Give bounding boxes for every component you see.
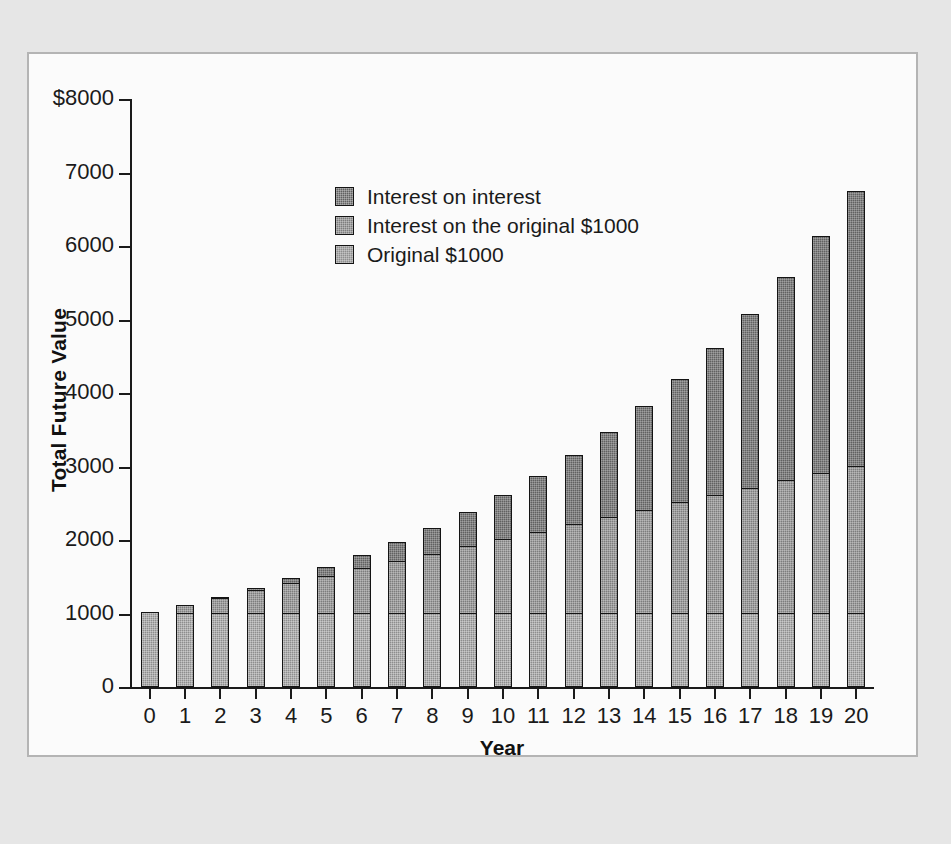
bar-segment-interest-on-interest[interactable] bbox=[317, 567, 335, 577]
bar-segment-interest-on-interest[interactable] bbox=[459, 512, 477, 547]
bar-segment-interest-on-original[interactable] bbox=[423, 553, 441, 613]
bar-segment-original[interactable] bbox=[777, 612, 795, 687]
bar-segment-interest-on-interest[interactable] bbox=[706, 348, 724, 496]
bar[interactable] bbox=[671, 380, 689, 687]
bar[interactable] bbox=[282, 579, 300, 687]
y-axis-tick bbox=[119, 320, 130, 322]
bar-segment-interest-on-interest[interactable] bbox=[565, 455, 583, 525]
bar-segment-interest-on-interest[interactable] bbox=[388, 542, 406, 562]
bar-segment-interest-on-interest[interactable] bbox=[847, 191, 865, 466]
bar-segment-interest-on-original[interactable] bbox=[635, 509, 653, 613]
bar[interactable] bbox=[176, 606, 194, 687]
bar-segment-interest-on-interest[interactable] bbox=[741, 314, 759, 489]
bar-segment-interest-on-interest[interactable] bbox=[282, 578, 300, 584]
bar-segment-interest-on-original[interactable] bbox=[494, 539, 512, 614]
bar[interactable] bbox=[741, 315, 759, 687]
bar-segment-original[interactable] bbox=[706, 612, 724, 687]
bar-segment-original[interactable] bbox=[600, 612, 618, 687]
x-axis-tick bbox=[325, 689, 327, 699]
bar[interactable] bbox=[706, 349, 724, 687]
bar-segment-interest-on-original[interactable] bbox=[565, 524, 583, 614]
bar-segment-interest-on-interest[interactable] bbox=[529, 476, 547, 533]
bar[interactable] bbox=[388, 544, 406, 687]
bar[interactable] bbox=[600, 433, 618, 687]
legend-swatch-icon bbox=[335, 216, 354, 235]
bar-segment-original[interactable] bbox=[388, 612, 406, 687]
bar-segment-original[interactable] bbox=[141, 612, 159, 687]
bar-segment-interest-on-interest[interactable] bbox=[812, 236, 830, 474]
x-axis-tick bbox=[184, 689, 186, 699]
x-axis-tick-label: 6 bbox=[356, 703, 368, 729]
bar[interactable] bbox=[777, 278, 795, 687]
bar[interactable] bbox=[211, 598, 229, 687]
chart-panel: Total Future Value Year $800070006000500… bbox=[27, 52, 918, 757]
bar-segment-interest-on-original[interactable] bbox=[459, 546, 477, 614]
bar-segment-interest-on-original[interactable] bbox=[777, 480, 795, 614]
bar[interactable] bbox=[529, 477, 547, 687]
bar-segment-interest-on-interest[interactable] bbox=[494, 495, 512, 540]
bar[interactable] bbox=[635, 408, 653, 687]
bar-segment-interest-on-original[interactable] bbox=[812, 472, 830, 613]
bar[interactable] bbox=[317, 569, 335, 687]
bar-segment-original[interactable] bbox=[529, 612, 547, 687]
bar-segment-interest-on-interest[interactable] bbox=[600, 432, 618, 518]
bar-segment-original[interactable] bbox=[812, 612, 830, 687]
bar-segment-interest-on-interest[interactable] bbox=[671, 379, 689, 504]
bar-segment-interest-on-original[interactable] bbox=[247, 590, 265, 614]
x-axis-tick bbox=[855, 689, 857, 699]
bar-segment-interest-on-interest[interactable] bbox=[353, 555, 371, 569]
bar-segment-original[interactable] bbox=[565, 612, 583, 687]
y-axis-tick bbox=[119, 540, 130, 542]
bar-segment-interest-on-original[interactable] bbox=[847, 465, 865, 614]
bar-segment-interest-on-interest[interactable] bbox=[635, 406, 653, 510]
bar-segment-interest-on-interest[interactable] bbox=[777, 277, 795, 481]
bar-segment-interest-on-original[interactable] bbox=[388, 561, 406, 614]
bar-segment-original[interactable] bbox=[635, 612, 653, 687]
bar[interactable] bbox=[847, 193, 865, 687]
bar-segment-original[interactable] bbox=[247, 612, 265, 687]
bar[interactable] bbox=[494, 496, 512, 687]
legend-item[interactable]: Interest on interest bbox=[335, 182, 639, 211]
bar[interactable] bbox=[565, 456, 583, 687]
bar[interactable] bbox=[423, 529, 441, 687]
y-axis-tick bbox=[119, 393, 130, 395]
bar-segment-original[interactable] bbox=[671, 612, 689, 687]
bar-segment-original[interactable] bbox=[353, 612, 371, 687]
bar-segment-interest-on-original[interactable] bbox=[317, 575, 335, 613]
bar-segment-original[interactable] bbox=[459, 612, 477, 687]
x-axis-tick-label: 11 bbox=[527, 703, 550, 729]
legend-item[interactable]: Interest on the original $1000 bbox=[335, 211, 639, 240]
bar[interactable] bbox=[353, 557, 371, 687]
bar-segment-interest-on-original[interactable] bbox=[282, 583, 300, 614]
bar-segment-original[interactable] bbox=[423, 612, 441, 687]
bar[interactable] bbox=[459, 514, 477, 687]
bar-segment-original[interactable] bbox=[494, 612, 512, 687]
x-axis-tick bbox=[361, 689, 363, 699]
bar[interactable] bbox=[812, 238, 830, 687]
bar-segment-interest-on-interest[interactable] bbox=[247, 588, 265, 592]
x-axis-tick-label: 15 bbox=[667, 703, 691, 729]
y-axis-tick-label: 4000 bbox=[65, 379, 114, 405]
legend-item[interactable]: Original $1000 bbox=[335, 240, 639, 269]
bar-segment-interest-on-original[interactable] bbox=[706, 494, 724, 613]
bar[interactable] bbox=[247, 589, 265, 687]
bar-segment-original[interactable] bbox=[282, 612, 300, 687]
x-axis-tick-label: 4 bbox=[285, 703, 297, 729]
bar-segment-original[interactable] bbox=[847, 612, 865, 687]
bar-segment-interest-on-original[interactable] bbox=[211, 597, 229, 613]
bar-segment-original[interactable] bbox=[176, 612, 194, 687]
bar-segment-original[interactable] bbox=[317, 612, 335, 687]
bar-segment-original[interactable] bbox=[211, 612, 229, 687]
bar[interactable] bbox=[141, 614, 159, 688]
bar-segment-interest-on-original[interactable] bbox=[176, 605, 194, 614]
bar-segment-interest-on-interest[interactable] bbox=[423, 528, 441, 555]
bar-segment-interest-on-original[interactable] bbox=[529, 531, 547, 613]
bar-segment-interest-on-original[interactable] bbox=[671, 502, 689, 614]
bar-segment-interest-on-original[interactable] bbox=[600, 516, 618, 613]
legend-swatch-icon bbox=[335, 245, 354, 264]
bar-segment-interest-on-original[interactable] bbox=[353, 568, 371, 614]
bar-segment-interest-on-original[interactable] bbox=[741, 487, 759, 613]
y-axis-tick bbox=[119, 687, 130, 689]
bar-segment-interest-on-interest[interactable] bbox=[211, 597, 229, 599]
bar-segment-original[interactable] bbox=[741, 612, 759, 687]
